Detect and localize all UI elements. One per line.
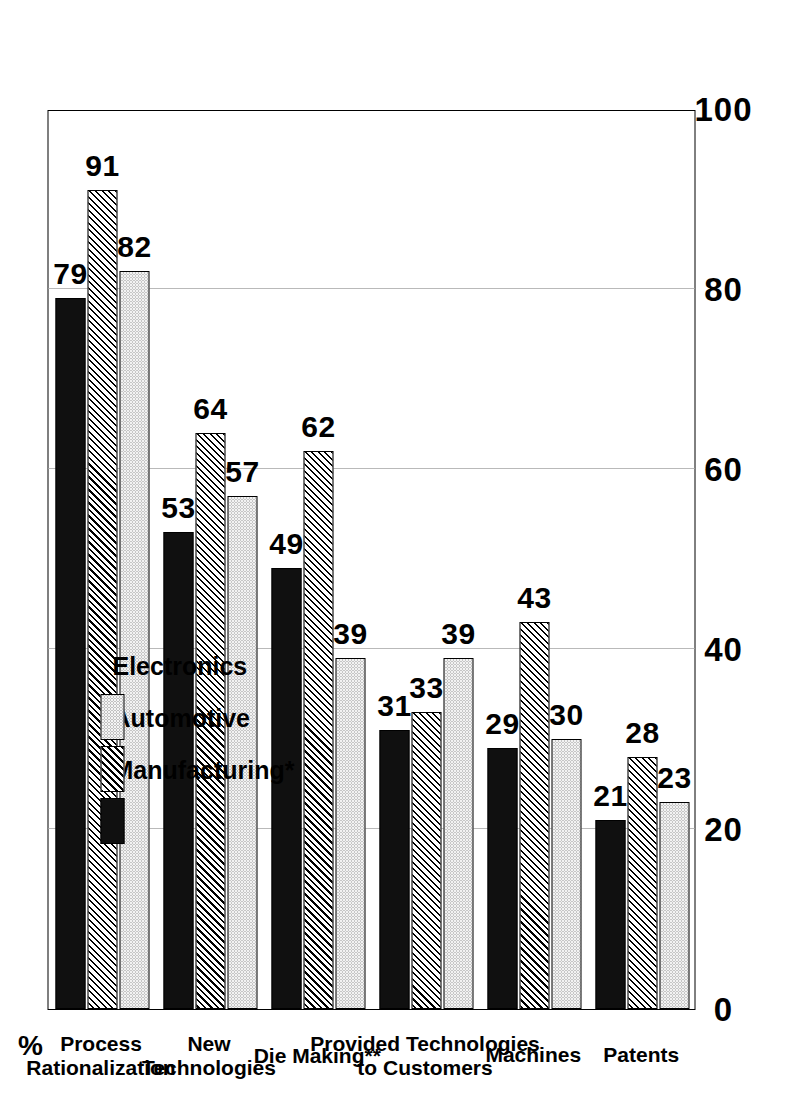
bar-value-label: 28 bbox=[627, 716, 657, 750]
bar-group: 212823 bbox=[588, 111, 696, 1009]
bar bbox=[595, 820, 625, 1009]
bar-value-label: 30 bbox=[551, 698, 581, 732]
bar-value-label: 82 bbox=[119, 230, 149, 264]
bar-group: 294330 bbox=[480, 111, 588, 1009]
bar bbox=[335, 658, 365, 1009]
axis-tick-label: 80 bbox=[704, 271, 742, 310]
bar bbox=[303, 451, 333, 1009]
legend-swatch bbox=[100, 798, 124, 844]
bar-value-label: 91 bbox=[87, 149, 117, 183]
legend-label: Electronics bbox=[96, 547, 128, 682]
bar bbox=[443, 658, 473, 1009]
rotated-chart-container: % 799182536457496239313339294330212823 0… bbox=[0, 0, 795, 1100]
bar bbox=[411, 712, 441, 1009]
category-label: ProcessRationalization bbox=[47, 1018, 155, 1092]
category-label-line: Machines bbox=[485, 1043, 581, 1067]
legend-item: Electronics bbox=[96, 440, 142, 740]
legend: Manufacturing*AutomotiveElectronics bbox=[96, 514, 296, 844]
category-label: NewTechnologies bbox=[155, 1018, 263, 1092]
bar-value-label: 62 bbox=[303, 410, 333, 444]
bar-group: 313339 bbox=[372, 111, 480, 1009]
bar-value-label: 39 bbox=[335, 617, 365, 651]
bar bbox=[551, 739, 581, 1009]
bar-value-label: 33 bbox=[411, 671, 441, 705]
chart-canvas: % 799182536457496239313339294330212823 0… bbox=[0, 0, 795, 1100]
bar-value-label: 31 bbox=[379, 689, 409, 723]
legend-swatch bbox=[100, 694, 124, 740]
bar bbox=[487, 748, 517, 1009]
axis-tick-label: 40 bbox=[704, 631, 742, 670]
axis-tick-label: 60 bbox=[704, 451, 742, 490]
axis-tick-label: 100 bbox=[704, 81, 742, 139]
axis-tick-label: 20 bbox=[704, 811, 742, 850]
bar-value-label: 57 bbox=[227, 455, 257, 489]
category-label: Machines bbox=[479, 1018, 587, 1092]
bar-value-label: 79 bbox=[55, 257, 85, 291]
bar-value-label: 43 bbox=[519, 581, 549, 615]
bar bbox=[519, 622, 549, 1009]
bar-value-label: 64 bbox=[195, 392, 225, 426]
bar-value-label: 39 bbox=[443, 617, 473, 651]
bar bbox=[55, 298, 85, 1009]
legend-swatch bbox=[100, 746, 124, 792]
category-label-line: Patents bbox=[603, 1043, 679, 1067]
bar-value-label: 21 bbox=[595, 779, 625, 813]
axis-tick-label: 0 bbox=[704, 1000, 742, 1019]
bar bbox=[627, 757, 657, 1009]
bar-value-label: 23 bbox=[659, 761, 689, 795]
category-label: Provided Technologiesto Customers bbox=[371, 1018, 479, 1092]
bar bbox=[659, 802, 689, 1009]
bar bbox=[379, 730, 409, 1009]
bar-value-label: 29 bbox=[487, 707, 517, 741]
category-label: Patents bbox=[587, 1018, 695, 1092]
